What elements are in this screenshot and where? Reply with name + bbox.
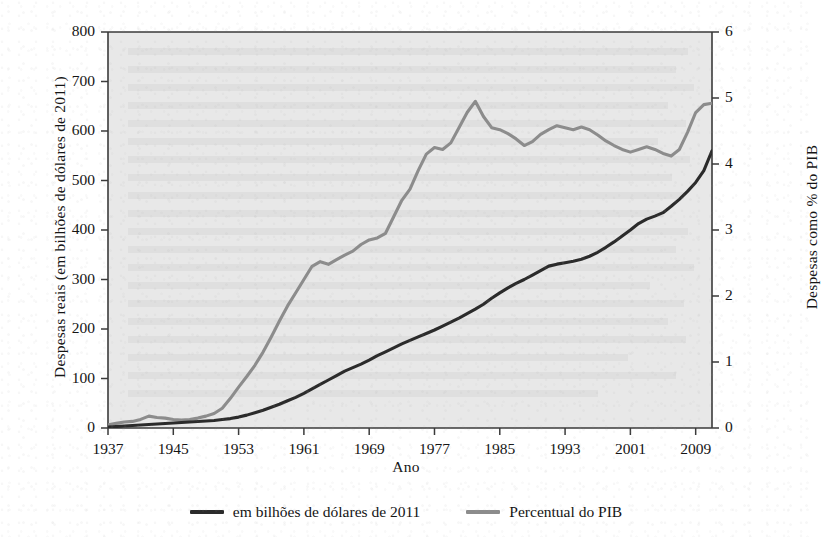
right-axis-ticks (712, 32, 719, 428)
y-axis-right-tick-label: 5 (725, 88, 771, 106)
x-axis-tick-label: 1969 (339, 440, 399, 458)
legend-label-percentual-do-pib: Percentual do PIB (509, 503, 622, 521)
x-axis-tick-label: 2001 (600, 440, 660, 458)
y-axis-right-title: Despesas como % do PIB (803, 27, 821, 427)
x-axis-tick-label: 1945 (143, 440, 203, 458)
y-axis-right-tick-label: 0 (725, 418, 771, 436)
y-axis-right-tick-label: 2 (725, 286, 771, 304)
legend-color-swatch-dark (190, 510, 224, 514)
y-axis-right-tick-label: 1 (725, 352, 771, 370)
legend-item-percentual-do-pib: Percentual do PIB (466, 503, 622, 521)
legend-label-bilhoes-de-dolares: em bilhões de dólares de 2011 (233, 503, 421, 521)
x-axis-tick-label: 1993 (535, 440, 595, 458)
x-axis-tick-label: 1961 (274, 440, 334, 458)
y-axis-right-tick-label: 4 (725, 154, 771, 172)
legend-color-swatch-gray (466, 510, 500, 514)
x-axis-tick-label: 1937 (78, 440, 138, 458)
x-axis-tick-label: 1977 (404, 440, 464, 458)
legend-item-bilhoes-de-dolares: em bilhões de dólares de 2011 (190, 503, 421, 521)
y-axis-right-tick-label: 3 (725, 220, 771, 238)
x-axis-title: Ano (0, 458, 812, 476)
chart-legend: em bilhões de dólares de 2011 Percentual… (0, 503, 812, 521)
y-axis-left-title: Despesas reais (em bilhões de dólares de… (51, 27, 69, 427)
y-axis-right-tick-label: 6 (725, 22, 771, 40)
left-axis-ticks (101, 32, 108, 428)
x-axis-tick-label: 2009 (666, 440, 726, 458)
x-axis-tick-label: 1953 (209, 440, 269, 458)
x-axis-tick-label: 1985 (470, 440, 530, 458)
x-axis-ticks (108, 428, 696, 435)
